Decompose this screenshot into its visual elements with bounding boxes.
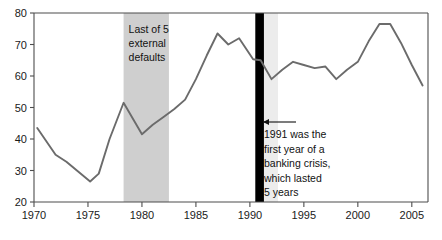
band-label-line: Last of 5 <box>129 23 169 35</box>
x-axis-tick-label: 1970 <box>22 209 46 221</box>
annotation-line: banking crisis, <box>264 157 331 169</box>
annotation-line: which lasted <box>263 172 322 184</box>
x-axis-tick-label: 2005 <box>400 209 424 221</box>
y-axis-tick-label: 30 <box>15 165 27 177</box>
y-axis-tick-label: 40 <box>15 133 27 145</box>
x-axis-tick-label: 1980 <box>130 209 154 221</box>
x-axis-tick-label: 2000 <box>346 209 370 221</box>
y-axis-tick-label: 50 <box>15 102 27 114</box>
y-axis-tick-label: 60 <box>15 70 27 82</box>
x-axis-tick-label: 1990 <box>238 209 262 221</box>
x-axis-tick-label: 1985 <box>184 209 208 221</box>
annotation-line: first year of a <box>264 143 325 155</box>
x-axis-tick-label: 1995 <box>292 209 316 221</box>
x-axis-tick-label: 1975 <box>76 209 100 221</box>
y-axis-tick-label: 70 <box>15 39 27 51</box>
band-label-line: external <box>129 37 166 49</box>
annotation-line: 5 years <box>264 186 298 198</box>
line-chart: 20304050607080 1970197519801985199019952… <box>0 0 442 240</box>
band-label-group: Last of 5externaldefaults <box>129 23 169 63</box>
y-axis-tick-label: 20 <box>15 196 27 208</box>
annotation-line: 1991 was the <box>264 128 327 140</box>
y-axis-ticks: 20304050607080 <box>15 7 34 208</box>
banking-crisis-marker <box>255 13 264 202</box>
band-label-line: defaults <box>129 51 166 63</box>
x-axis-ticks: 19701975198019851990199520002005 <box>22 202 424 221</box>
y-axis-tick-label: 80 <box>15 7 27 19</box>
chart-container: 20304050607080 1970197519801985199019952… <box>0 0 442 240</box>
vertical-markers-group <box>255 13 264 202</box>
